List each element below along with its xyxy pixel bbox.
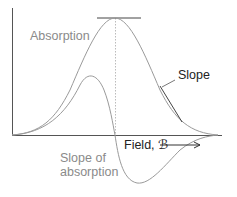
slope-of-absorption-label-1: Slope of [60, 151, 106, 165]
slope-of-absorption-label-2: absorption [60, 165, 118, 179]
slope-label: Slope [178, 68, 210, 82]
slope-pointer-line [162, 80, 175, 87]
absorption-label: Absorption [30, 29, 90, 43]
slope-tangent-line [160, 86, 182, 122]
field-label: Field, ℬ [124, 138, 168, 152]
